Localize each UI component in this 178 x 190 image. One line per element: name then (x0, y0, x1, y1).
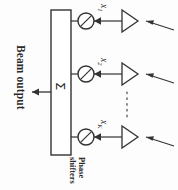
signal-label-x1-subscript: 1 (97, 8, 104, 11)
incoming-signal-3-arrowhead (146, 136, 154, 141)
branch-1-direction-arrowhead (94, 17, 101, 25)
signal-label-xk-subscript: K (97, 124, 104, 128)
phase-shifters-label-line2: shifters (69, 157, 78, 184)
figure-canvas: Beam output Σ x1 x2 xK Phaseshifters (0, 0, 178, 190)
antenna-2-triangle (122, 63, 138, 85)
signal-label-x1: x1 (97, 4, 108, 11)
signal-label-x2: x2 (97, 58, 108, 65)
beam-output-arrowhead (32, 88, 39, 95)
summation-sigma-symbol: Σ (54, 82, 67, 90)
incoming-signal-1-arrowhead (146, 20, 154, 25)
incoming-signal-2-arrowhead (146, 73, 154, 78)
branch-3-direction-arrowhead (94, 133, 101, 141)
beam-output-label: Beam output (15, 45, 27, 110)
signal-label-x2-subscript: 2 (97, 62, 104, 65)
phase-shifters-label: Phaseshifters (78, 157, 87, 178)
antenna-3-triangle (122, 126, 138, 148)
signal-label-xk: xK (97, 120, 108, 129)
branch-2-direction-arrowhead (94, 70, 101, 78)
antenna-1-triangle (122, 10, 138, 32)
phase-shifters-label-line1: Phase (77, 157, 87, 178)
